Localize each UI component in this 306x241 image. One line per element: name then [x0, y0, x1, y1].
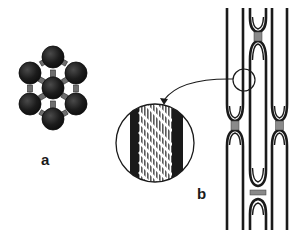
- sphere-lower-left: [19, 93, 41, 115]
- panel-a-cluster: [19, 46, 87, 130]
- diagram-canvas: [0, 0, 306, 241]
- sphere-lower-right: [65, 93, 87, 115]
- sphere-bottom: [42, 108, 64, 130]
- fiber-left: [227, 8, 243, 230]
- sphere-upper-right: [65, 62, 87, 84]
- panel-a-label: a: [41, 152, 49, 167]
- curved-arrow-icon: [160, 79, 233, 105]
- fiber-right: [272, 8, 287, 230]
- panel-b-fibers: [227, 8, 287, 230]
- sphere-upper-left: [19, 62, 41, 84]
- panel-b-label: b: [197, 186, 206, 201]
- sphere-top: [42, 46, 64, 68]
- fiber-middle: [250, 8, 266, 230]
- sphere-center: [42, 77, 64, 99]
- magnified-inset: [116, 104, 196, 188]
